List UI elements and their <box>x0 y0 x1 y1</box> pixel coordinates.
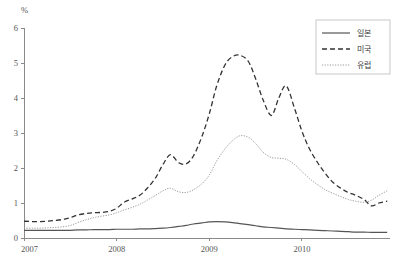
legend-label-3: 유럽 <box>357 61 371 70</box>
series-group <box>24 55 387 232</box>
x-tick-label: 2008 <box>108 244 125 254</box>
y-tick-label: 1 <box>14 198 18 208</box>
y-tick-label: 6 <box>14 23 18 33</box>
y-tick-label: 3 <box>14 128 18 138</box>
chart-svg: 0123456 2007200820092010 % 일본미국유럽 <box>0 0 394 262</box>
y-tick-label: 0 <box>14 233 18 243</box>
line-chart: 0123456 2007200820092010 % 일본미국유럽 <box>0 0 394 262</box>
x-tick-label: 2009 <box>201 244 218 254</box>
x-axis-ticks: 2007200820092010 <box>21 238 310 254</box>
x-tick-label: 2007 <box>21 244 38 254</box>
legend-label-1: 일본 <box>357 29 371 38</box>
y-axis-unit-label: % <box>21 5 28 15</box>
series-line-japan <box>24 222 387 233</box>
chart-legend: 일본미국유럽 <box>316 20 390 74</box>
legend-background <box>316 20 390 74</box>
x-tick-label: 2010 <box>293 244 310 254</box>
y-tick-label: 5 <box>14 58 18 68</box>
y-axis-ticks: 0123456 <box>14 23 24 243</box>
legend-label-2: 미국 <box>357 45 371 54</box>
series-line-us <box>24 55 387 222</box>
y-tick-label: 2 <box>14 163 18 173</box>
y-tick-label: 4 <box>14 93 19 103</box>
